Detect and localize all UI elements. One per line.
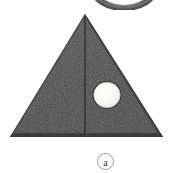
figure-container: a (0, 0, 171, 173)
caption-letter: a (103, 157, 107, 167)
figure-illustration (0, 0, 171, 173)
caption-circle-label: a (97, 153, 114, 170)
mounting-hole (92, 81, 121, 109)
